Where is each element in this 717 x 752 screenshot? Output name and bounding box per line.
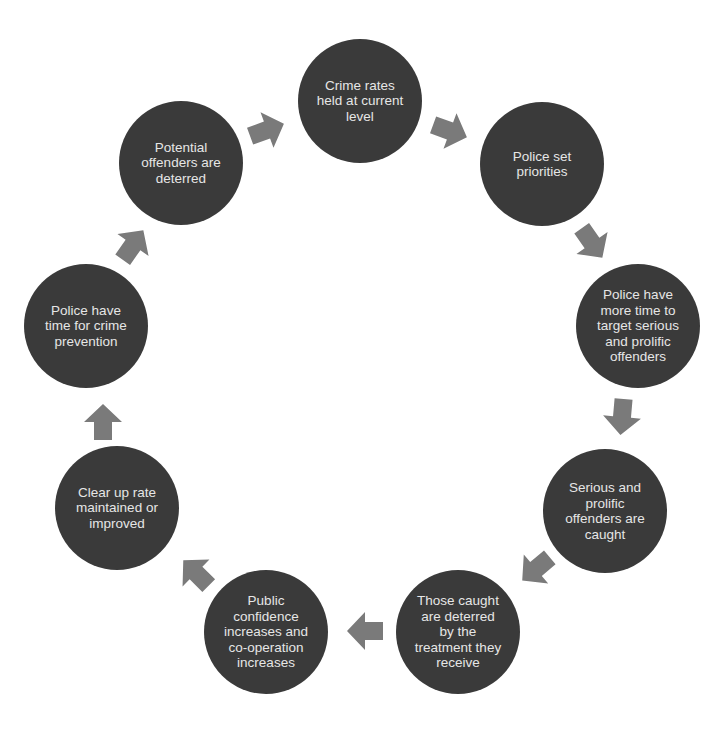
arrow-right-icon [345, 611, 385, 651]
arrow-right-icon [564, 215, 620, 271]
node-police-set-priorities: Police set priorities [480, 102, 604, 226]
node-label: Police have more time to target serious … [597, 287, 679, 365]
arrow-right-icon [241, 104, 292, 155]
node-clear-up-rate: Clear up rate maintained or improved [55, 446, 179, 570]
cycle-diagram: Crime rates held at current level Police… [0, 0, 717, 752]
node-those-caught-deterred: Those caught are deterred by the treatme… [396, 570, 520, 694]
node-crime-prevention: Police have time for crime prevention [24, 264, 148, 388]
node-label: Public confidence increases and co-opera… [224, 593, 308, 671]
node-crime-rates-held: Crime rates held at current level [298, 39, 422, 163]
node-label: Those caught are deterred by the treatme… [415, 593, 501, 671]
arrow-right-icon [600, 395, 643, 438]
arrow-right-icon [105, 217, 161, 273]
node-label: Police have time for crime prevention [45, 303, 127, 350]
arrow-right-icon [424, 105, 475, 156]
node-label: Serious and prolific offenders are caugh… [565, 480, 644, 542]
arrow-right-icon [168, 545, 225, 602]
node-label: Crime rates held at current level [317, 78, 403, 125]
arrow-right-icon [83, 402, 123, 442]
node-label: Clear up rate maintained or improved [76, 485, 158, 532]
node-label: Potential offenders are deterred [141, 140, 220, 187]
node-potential-offenders-deterred: Potential offenders are deterred [119, 101, 243, 225]
node-label: Police set priorities [513, 149, 572, 180]
node-police-more-time-target: Police have more time to target serious … [576, 264, 700, 388]
node-offenders-caught: Serious and prolific offenders are caugh… [543, 449, 667, 573]
node-public-confidence: Public confidence increases and co-opera… [204, 570, 328, 694]
